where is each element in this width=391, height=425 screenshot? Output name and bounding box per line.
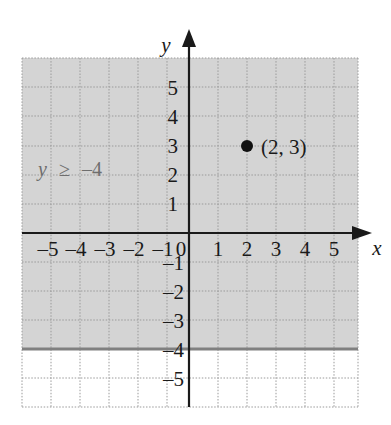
inequality-value: –4: [81, 158, 102, 180]
x-tick-label-1: 1: [213, 237, 224, 261]
inequality-relation: ≥: [59, 158, 70, 180]
y-tick-label-neg-5: –5: [162, 367, 184, 391]
y-axis-label: y: [159, 33, 171, 57]
inequality-annotation: y ≥ –4: [36, 158, 102, 181]
y-tick-label-neg-4: –4: [162, 338, 185, 362]
y-tick-label-4: 4: [168, 105, 179, 129]
x-axis-arrowhead: [352, 226, 372, 240]
plotted-point-2-3: [241, 140, 253, 152]
y-tick-label-2: 2: [168, 163, 179, 187]
y-tick-label-5: 5: [168, 76, 179, 100]
x-tick-label-3: 3: [271, 237, 282, 261]
y-tick-label-neg-2: –2: [162, 280, 184, 304]
x-tick-label-neg-5: –5: [37, 237, 59, 261]
y-tick-label-3: 3: [168, 134, 179, 158]
y-tick-label-1: 1: [168, 192, 179, 216]
x-tick-label-2: 2: [242, 237, 253, 261]
x-tick-label-5: 5: [329, 237, 340, 261]
point-label-2-3: (2, 3): [261, 135, 307, 159]
y-tick-label-neg-1: –1: [162, 251, 184, 275]
y-tick-label-neg-3: –3: [162, 309, 184, 333]
y-axis-arrowhead: [182, 29, 196, 47]
graph-figure: y x 0 –5 –4 –3 –2 –1 1 2 3 4 5 5 4 3 2 1…: [0, 0, 391, 425]
x-axis-label: x: [371, 236, 382, 260]
x-tick-label-neg-3: –3: [94, 237, 116, 261]
x-tick-label-neg-4: –4: [65, 237, 88, 261]
x-tick-label-neg-2: –2: [123, 237, 145, 261]
inequality-variable: y: [36, 158, 47, 181]
coordinate-plane-svg: y x 0 –5 –4 –3 –2 –1 1 2 3 4 5 5 4 3 2 1…: [0, 0, 391, 425]
x-tick-label-4: 4: [300, 237, 311, 261]
